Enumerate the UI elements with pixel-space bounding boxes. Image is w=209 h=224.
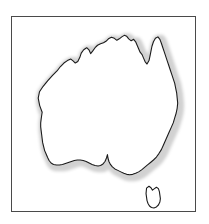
map-frame (11, 16, 196, 212)
map-figure: Australia (0, 0, 209, 224)
mainland-fill (38, 35, 177, 174)
map-canvas (12, 17, 195, 211)
